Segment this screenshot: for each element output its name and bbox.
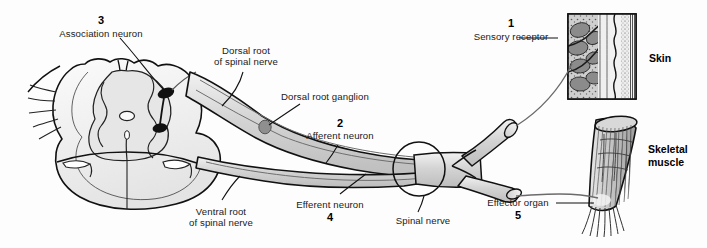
association-neuron-number: 3 [98, 14, 104, 26]
effector-organ-number: 5 [515, 209, 521, 221]
effector-organ-label: Effector organ [487, 197, 549, 209]
leader-dorsal-root-ganglion [269, 104, 300, 125]
leader-ventral-root [222, 176, 240, 200]
spinal-nerve-label: Spinal nerve [396, 215, 451, 227]
dorsal-root-ganglion-body [259, 120, 271, 134]
afferent-neuron-label: Afferent neuron [306, 130, 373, 142]
ventral-root-label-line2: of spinal nerve [189, 217, 253, 229]
skeletal-muscle-label-line2: muscle [648, 156, 684, 169]
sensory-receptor-label: Sensory receptor [474, 31, 549, 43]
dorsal-root-ganglion-label: Dorsal root ganglion [281, 91, 369, 103]
efferent-neuron-label: Efferent neuron [296, 199, 363, 211]
efferent-neuron-number: 4 [327, 211, 333, 223]
figure-canvas: 3 Association neuron Dorsal root of spin… [0, 0, 707, 248]
skeletal-muscle-organ [582, 114, 638, 237]
dorsal-root-label-line1: Dorsal root [222, 45, 270, 57]
ventral-root-label-line1: Ventral root [196, 206, 246, 218]
sensory-receptor-number: 1 [508, 17, 514, 29]
skin-label: Skin [649, 52, 671, 65]
afferent-neuron-number: 2 [337, 117, 343, 129]
skeletal-muscle-label-line1: Skeletal [648, 143, 688, 156]
skin-histology-inset [567, 14, 636, 99]
association-neuron-label: Association neuron [59, 28, 142, 40]
leader-spinal-nerve [418, 196, 424, 212]
dorsal-root-label-line2: of spinal nerve [214, 56, 278, 68]
